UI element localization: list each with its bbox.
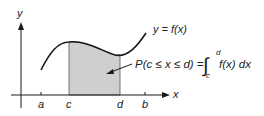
integral-lower-limit: c <box>206 71 210 80</box>
tick-label-b: b <box>142 98 148 110</box>
shaded-area-region <box>69 42 120 95</box>
x-axis-arrow-icon <box>162 92 170 98</box>
x-axis-label: x <box>172 88 179 100</box>
tick-label-c: c <box>66 98 72 110</box>
curve-label: y = f(x) <box>152 23 187 35</box>
integrand: f(x) dx <box>219 58 252 70</box>
formula-lhs: P(c ≤ x ≤ d) = <box>135 58 204 70</box>
probability-diagram: y x a c d b y = f(x) P(c ≤ x ≤ d) = ∫ d … <box>0 0 264 116</box>
y-axis-label: y <box>16 7 24 19</box>
integral-upper-limit: d <box>216 48 221 57</box>
tick-label-a: a <box>38 98 44 110</box>
tick-label-d: d <box>117 98 124 110</box>
y-axis-arrow-icon <box>18 22 24 30</box>
